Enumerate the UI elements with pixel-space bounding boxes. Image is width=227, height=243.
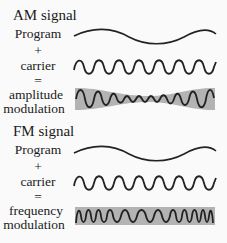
am-plus: + [4, 44, 72, 58]
fm-program-label: Program [4, 143, 72, 157]
fm-result-label-2: modulation [0, 218, 68, 232]
am-program-label: Program [4, 27, 72, 41]
am-carrier-label: carrier [4, 59, 72, 73]
am-result-label-2: modulation [0, 102, 68, 116]
fm-title: FM signal [13, 124, 74, 138]
fm-equals: = [4, 190, 72, 204]
am-result-label-1: amplitude [2, 88, 70, 102]
fm-plus: + [4, 160, 72, 174]
am-modulated-wave [72, 86, 218, 112]
am-program-wave [72, 28, 218, 46]
am-carrier-wave [72, 56, 218, 78]
am-title: AM signal [13, 8, 77, 22]
fm-program-wave [72, 145, 218, 163]
fm-carrier-label: carrier [4, 175, 72, 189]
fm-result-label-1: frequency [2, 204, 70, 218]
fm-modulated-wave [72, 205, 218, 227]
am-equals: = [4, 74, 72, 88]
fm-carrier-wave [72, 172, 218, 194]
